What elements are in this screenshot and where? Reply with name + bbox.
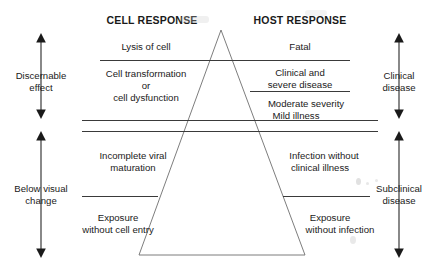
pyramid-shape xyxy=(139,30,305,255)
host-response-infection-without: Infection without xyxy=(289,150,358,161)
right-axis-label-clinical-line2: disease xyxy=(382,82,415,93)
scan-artifact-speck xyxy=(375,179,378,182)
host-response-moderate-severity: Moderate severity xyxy=(268,98,344,109)
cell-response-transformation: Cell transformation xyxy=(106,68,187,79)
host-response-without-infection: without infection xyxy=(306,224,375,235)
left-axis-label-below-visual-line1: Below visual xyxy=(14,183,67,194)
scan-artifact-speck xyxy=(350,236,356,244)
header-host-response: HOST RESPONSE xyxy=(253,14,346,26)
cell-response-dysfunction: cell dysfunction xyxy=(113,92,179,103)
cell-response-or: or xyxy=(142,80,151,91)
host-response-fatal: Fatal xyxy=(289,41,310,52)
scan-artifact-smudge xyxy=(305,10,327,16)
cell-response-exposure: Exposure xyxy=(98,212,139,223)
scan-artifact-smudge xyxy=(181,16,209,23)
left-axis-label-discernable-line2: effect xyxy=(29,82,52,93)
host-response-exposure: Exposure xyxy=(310,212,351,223)
scan-artifact-speck xyxy=(366,182,369,185)
right-axis-label-clinical-line1: Clinical xyxy=(384,70,415,81)
diagram-canvas: CELL RESPONSE HOST RESPONSE Lysis of cel… xyxy=(0,0,439,270)
left-axis-label-discernable-line1: Discernable xyxy=(16,70,67,81)
cell-response-incomplete-viral: Incomplete viral xyxy=(99,150,166,161)
host-response-clinical-illness: clinical illness xyxy=(291,162,349,173)
host-response-mild-illness: Mild illness xyxy=(273,110,320,121)
left-axis-label-below-visual-line2: change xyxy=(25,195,56,206)
right-axis-label-subclinical-line2: disease xyxy=(382,195,415,206)
cell-response-lysis: Lysis of cell xyxy=(121,41,170,52)
scan-artifact-speck xyxy=(356,178,361,185)
host-response-clinical-and: Clinical and xyxy=(275,67,325,78)
cell-response-without-cell-entry: without cell entry xyxy=(82,224,153,235)
host-response-severe-disease: severe disease xyxy=(268,79,333,90)
cell-response-maturation: maturation xyxy=(110,162,155,173)
right-axis-label-subclinical-line1: Subclinical xyxy=(376,183,422,194)
